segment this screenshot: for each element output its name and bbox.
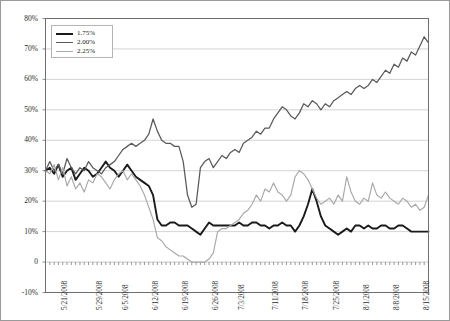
y-axis-tick-label: -10% [4,289,38,297]
y-axis-tick-label: 20% [4,197,38,205]
x-axis-tick-label: 8/8/2008 [393,284,401,310]
x-axis-tick-label: 7/11/2008 [272,281,280,310]
series-line-2-00 [46,37,429,207]
x-axis-tick-label: 6/19/2008 [182,281,190,310]
x-axis-tick-label: 7/18/2008 [302,281,310,310]
x-axis-tick-label: 5/29/2008 [96,281,104,310]
legend-item: 2.25% [55,47,112,56]
y-axis-tick-label: 70% [4,45,38,53]
legend-label-2-25: 2.25% [77,47,95,56]
x-axis-tick-label: 6/12/2008 [152,281,160,310]
legend-swatch-2-00 [56,42,73,43]
gridlines [46,19,429,293]
legend-item: 2.00% [55,38,112,47]
y-axis-tick-label: 0 [4,258,38,266]
x-axis-tick-label: 5/21/2008 [61,281,69,310]
x-axis-tick-label: 8/1/2008 [363,284,371,310]
y-axis-tick-label: 30% [4,167,38,175]
x-axis-tick-label: 8/15/2008 [423,281,431,310]
line-chart: 80%70%60%50%40%30%20%10%0-10% 5/21/20085… [0,0,450,321]
y-axis-tick-label: 50% [4,106,38,114]
y-axis-tick-label: 80% [4,15,38,23]
legend-label-1-75: 1.75% [77,29,95,38]
y-axis-tick-label: 60% [4,75,38,83]
y-axis-tick-label: 10% [4,228,38,236]
x-axis-tick-label: 7/25/2008 [333,281,341,310]
legend-swatch-1-75 [56,33,73,35]
y-axis-tick-label: 40% [4,136,38,144]
legend-item: 1.75% [55,29,112,38]
x-axis-tick-label: 7/3/2008 [238,284,246,310]
chart-legend: 1.75% 2.00% 2.25% [51,25,113,58]
x-axis-tick-label: 6/5/2008 [122,284,130,310]
legend-label-2-00: 2.00% [77,38,95,47]
plot-area-border [46,19,429,293]
x-axis-tick-label: 6/26/2008 [212,281,220,310]
legend-swatch-2-25 [56,51,73,52]
series-lines [46,37,429,262]
series-line-2-25 [46,165,429,262]
